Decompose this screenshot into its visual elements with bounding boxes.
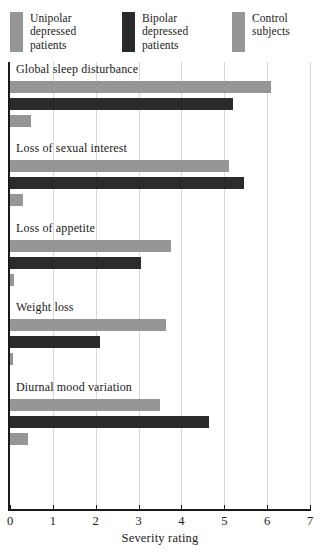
bar [10, 433, 28, 445]
x-axis-tick-label: 0 [7, 513, 13, 529]
x-axis-tick-label: 6 [264, 513, 270, 529]
bar-group-label: Diurnal mood variation [16, 380, 132, 394]
plot-area: Global sleep disturbanceLoss of sexual i… [10, 62, 310, 509]
legend-label-line: patients [142, 39, 188, 52]
bar [10, 336, 100, 348]
bar-group-label: Loss of sexual interest [16, 141, 127, 155]
bar-group-label: Loss of appetite [16, 221, 95, 235]
bar [10, 81, 271, 93]
x-axis-tick [53, 505, 54, 511]
legend-label: Unipolardepressedpatients [30, 12, 76, 52]
legend-entry: Controlsubjects [232, 12, 310, 52]
bar-group: Loss of sexual interest [10, 141, 310, 206]
bar-group-label: Global sleep disturbance [16, 62, 138, 76]
x-axis-tick [139, 505, 140, 511]
legend-label-line: depressed [30, 25, 76, 38]
x-axis-tick-label: 4 [178, 513, 184, 529]
legend-swatch-icon [232, 12, 245, 52]
bar [10, 115, 31, 127]
bar [10, 98, 233, 110]
x-axis-tick-label: 2 [93, 513, 99, 529]
legend-label-line: subjects [252, 25, 290, 38]
bar [10, 257, 141, 269]
bar-group: Loss of appetite [10, 221, 310, 286]
x-axis-tick-labels: 01234567 [10, 513, 310, 531]
legend-label-line: depressed [142, 25, 188, 38]
bar [10, 160, 229, 172]
legend-entry: Unipolardepressedpatients [10, 12, 122, 52]
x-axis-tick-label: 5 [221, 513, 227, 529]
bar-group-label: Weight loss [16, 300, 74, 314]
x-axis-tick-label: 3 [135, 513, 141, 529]
bar [10, 416, 209, 428]
bar [10, 177, 244, 189]
x-axis-tick [310, 505, 311, 511]
bar [10, 353, 13, 365]
x-axis-tick-label: 7 [307, 513, 313, 529]
x-axis-tick [96, 505, 97, 511]
legend-label: Bipolardepressedpatients [142, 12, 188, 52]
bar [10, 240, 171, 252]
x-axis-tick [181, 505, 182, 511]
bar-group: Global sleep disturbance [10, 62, 310, 127]
x-axis-tick [267, 505, 268, 511]
bar-group: Weight loss [10, 300, 310, 365]
bar-group: Diurnal mood variation [10, 380, 310, 445]
x-axis-tick-label: 1 [50, 513, 56, 529]
legend-label-line: Bipolar [142, 12, 188, 25]
bar [10, 274, 14, 286]
gridline [310, 62, 311, 509]
legend-swatch-icon [122, 12, 135, 52]
legend-label-line: Unipolar [30, 12, 76, 25]
bar-chart: UnipolardepressedpatientsBipolardepresse… [0, 0, 320, 555]
chart-legend: UnipolardepressedpatientsBipolardepresse… [10, 12, 310, 60]
legend-entry: Bipolardepressedpatients [122, 12, 232, 52]
x-axis-tick [224, 505, 225, 511]
bar [10, 319, 166, 331]
bar [10, 399, 160, 411]
legend-label: Controlsubjects [252, 12, 290, 39]
x-axis-tick [10, 505, 11, 511]
bar [10, 194, 23, 206]
legend-label-line: patients [30, 39, 76, 52]
legend-swatch-icon [10, 12, 23, 52]
x-axis-title: Severity rating [0, 531, 320, 546]
legend-label-line: Control [252, 12, 290, 25]
